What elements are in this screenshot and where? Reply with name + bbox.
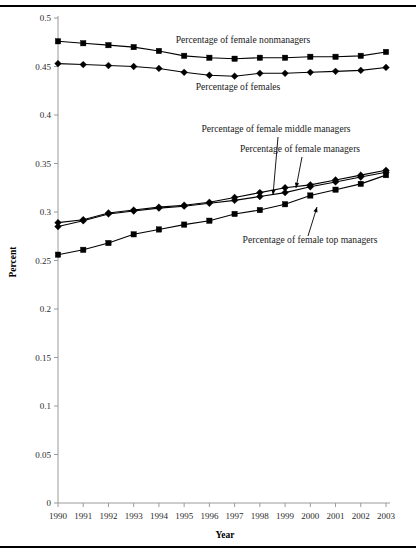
data-point-marker xyxy=(81,247,86,252)
y-axis-tick-labels: 00.050.10.150.20.250.30.350.40.450.5 xyxy=(35,13,58,508)
data-point-marker xyxy=(307,69,314,76)
data-point-marker xyxy=(105,211,112,218)
data-point-marker xyxy=(383,64,390,71)
x-axis-tick-label: 1994 xyxy=(150,511,169,521)
data-point-marker xyxy=(181,69,188,76)
data-point-marker xyxy=(232,56,237,61)
data-point-marker xyxy=(256,193,263,200)
data-point-marker xyxy=(207,55,212,60)
data-point-marker xyxy=(106,240,111,245)
data-point-marker xyxy=(333,54,338,59)
data-point-marker xyxy=(131,44,136,49)
data-point-marker xyxy=(282,189,289,196)
annotation-arrowhead xyxy=(313,207,317,213)
y-axis-tick-label: 0 xyxy=(47,498,52,508)
line-chart-canvas: 00.050.10.150.20.250.30.350.40.450.5 199… xyxy=(0,0,416,553)
data-point-marker xyxy=(206,200,213,207)
annotation-label: Percentage of female managers xyxy=(240,143,360,154)
annotation-label: Percentage of females xyxy=(196,81,281,92)
y-axis-tick-label: 0.1 xyxy=(40,401,51,411)
data-point-marker xyxy=(156,227,161,232)
data-point-marker xyxy=(80,217,87,224)
chart-figure: 00.050.10.150.20.250.30.350.40.450.5 199… xyxy=(0,0,416,553)
y-axis-title: Percent xyxy=(8,246,18,278)
data-point-marker xyxy=(105,62,112,69)
data-point-marker xyxy=(55,39,60,44)
chart-annotations: Percentage of female nonmanagersPercenta… xyxy=(176,34,378,245)
y-axis-tick-label: 0.2 xyxy=(40,304,51,314)
data-point-marker xyxy=(80,61,87,68)
x-axis-tick-label: 1999 xyxy=(276,511,295,521)
y-axis-tick-label: 0.3 xyxy=(40,207,52,217)
data-point-marker xyxy=(282,55,287,60)
x-axis-tick-label: 1993 xyxy=(125,511,144,521)
series-2 xyxy=(55,60,390,79)
data-point-marker xyxy=(131,232,136,237)
y-axis-tick-label: 0.45 xyxy=(35,62,51,72)
x-axis-tick-label: 1991 xyxy=(74,511,92,521)
data-point-marker xyxy=(55,60,62,67)
data-point-marker xyxy=(181,53,186,58)
y-axis-tick-label: 0.4 xyxy=(40,110,52,120)
annotation-label: Percentage of female nonmanagers xyxy=(176,34,311,45)
x-axis-tick-label: 1992 xyxy=(99,511,117,521)
data-point-marker xyxy=(358,181,363,186)
data-point-marker xyxy=(333,187,338,192)
data-point-marker xyxy=(130,63,137,70)
data-point-marker xyxy=(383,172,388,177)
data-point-marker xyxy=(207,218,212,223)
data-point-marker xyxy=(282,202,287,207)
data-point-marker xyxy=(256,70,263,77)
data-point-marker xyxy=(232,211,237,216)
data-point-marker xyxy=(357,67,364,74)
y-axis-tick-label: 0.35 xyxy=(35,159,51,169)
y-axis-tick-label: 0.15 xyxy=(35,353,51,363)
x-axis-tick-label: 2000 xyxy=(301,511,320,521)
data-point-marker xyxy=(81,41,86,46)
data-point-marker xyxy=(206,72,213,79)
data-point-marker xyxy=(181,203,188,210)
data-point-marker xyxy=(156,205,163,212)
y-axis-tick-label: 0.25 xyxy=(35,256,51,266)
annotation-label: Percentage of female top managers xyxy=(243,234,378,245)
data-point-marker xyxy=(282,70,289,77)
data-point-marker xyxy=(257,55,262,60)
x-axis-tick-label: 1997 xyxy=(226,511,245,521)
data-point-marker xyxy=(55,223,62,230)
x-axis-tick-label: 1998 xyxy=(251,511,270,521)
data-point-marker xyxy=(156,48,161,53)
annotation-arrowhead xyxy=(295,182,299,188)
data-point-marker xyxy=(106,42,111,47)
x-axis-tick-label: 2003 xyxy=(377,511,396,521)
data-point-marker xyxy=(231,73,238,80)
data-point-marker xyxy=(55,252,60,257)
data-point-marker xyxy=(156,65,163,72)
data-point-marker xyxy=(308,193,313,198)
data-point-marker xyxy=(181,222,186,227)
x-axis-title: Year xyxy=(216,530,236,540)
y-axis-tick-label: 0.05 xyxy=(35,450,51,460)
data-point-marker xyxy=(383,49,388,54)
x-axis-tick-label: 2001 xyxy=(327,511,345,521)
data-point-marker xyxy=(130,208,137,215)
x-axis-tick-label: 1996 xyxy=(200,511,219,521)
data-point-marker xyxy=(308,54,313,59)
y-axis-tick-label: 0.5 xyxy=(40,13,52,23)
x-axis-tick-label: 2002 xyxy=(352,511,370,521)
x-axis-tick-label: 1990 xyxy=(49,511,68,521)
x-axis-tick-labels: 1990199119921993199419951996199719981999… xyxy=(49,503,396,521)
data-point-marker xyxy=(332,68,339,75)
data-point-marker xyxy=(257,207,262,212)
annotation-label: Percentage of female middle managers xyxy=(201,123,350,134)
data-point-marker xyxy=(358,53,363,58)
x-axis-tick-label: 1995 xyxy=(175,511,194,521)
